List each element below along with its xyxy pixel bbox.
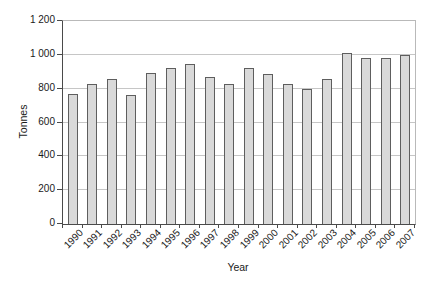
plot-area xyxy=(62,20,416,225)
x-tick-label: 1993 xyxy=(120,227,144,251)
x-tick-mark xyxy=(336,224,337,228)
x-tick-mark xyxy=(355,224,356,228)
x-tick-label: 1997 xyxy=(198,227,222,251)
x-tick-mark xyxy=(218,224,219,228)
bar-1997 xyxy=(205,77,215,224)
x-tick-mark xyxy=(297,224,298,228)
bar-1999 xyxy=(244,68,254,224)
y-tick-label: 1 000 xyxy=(0,48,55,60)
bar-1993 xyxy=(126,95,136,224)
x-tick-label: 1996 xyxy=(178,227,202,251)
x-tick-mark xyxy=(199,224,200,228)
x-tick-mark xyxy=(101,224,102,228)
x-tick-mark xyxy=(179,224,180,228)
x-tick-label: 2001 xyxy=(276,227,300,251)
bar-1992 xyxy=(107,79,117,224)
x-tick-label: 1998 xyxy=(218,227,242,251)
y-tick-label: 1 200 xyxy=(0,14,55,26)
x-tick-label: 1995 xyxy=(159,227,183,251)
bar-chart: Tonnes Year 02004006008001 0001 20019901… xyxy=(0,0,422,285)
x-tick-label: 1994 xyxy=(139,227,163,251)
bar-2003 xyxy=(322,79,332,224)
y-tick-mark xyxy=(57,88,62,89)
x-tick-label: 2000 xyxy=(257,227,281,251)
x-tick-label: 2004 xyxy=(335,227,359,251)
x-tick-label: 2002 xyxy=(296,227,320,251)
x-tick-mark xyxy=(414,224,415,228)
x-tick-label: 1999 xyxy=(237,227,261,251)
bar-2001 xyxy=(283,84,293,224)
x-tick-mark xyxy=(394,224,395,228)
bar-2002 xyxy=(302,89,312,224)
bar-1998 xyxy=(224,84,234,224)
bar-2004 xyxy=(342,53,352,224)
x-tick-label: 2007 xyxy=(394,227,418,251)
y-tick-label: 400 xyxy=(0,149,55,161)
x-tick-label: 1992 xyxy=(100,227,124,251)
x-tick-label: 1991 xyxy=(81,227,105,251)
y-tick-label: 600 xyxy=(0,116,55,128)
x-tick-mark xyxy=(316,224,317,228)
x-tick-mark xyxy=(140,224,141,228)
x-tick-mark xyxy=(375,224,376,228)
x-tick-label: 2005 xyxy=(354,227,378,251)
bar-1996 xyxy=(185,64,195,224)
x-axis-title: Year xyxy=(62,261,414,273)
y-tick-label: 200 xyxy=(0,183,55,195)
bar-2000 xyxy=(263,74,273,224)
x-tick-mark xyxy=(121,224,122,228)
bar-1990 xyxy=(68,94,78,224)
x-tick-mark xyxy=(160,224,161,228)
y-tick-label: 800 xyxy=(0,82,55,94)
gridline xyxy=(63,54,415,55)
x-tick-mark xyxy=(62,224,63,228)
y-tick-mark xyxy=(57,122,62,123)
y-tick-mark xyxy=(57,155,62,156)
y-tick-mark xyxy=(57,20,62,21)
x-tick-mark xyxy=(238,224,239,228)
x-tick-mark xyxy=(258,224,259,228)
x-tick-label: 2003 xyxy=(315,227,339,251)
bar-1994 xyxy=(146,73,156,224)
bar-1991 xyxy=(87,84,97,224)
bar-2005 xyxy=(361,58,371,224)
bar-2007 xyxy=(400,55,410,224)
y-tick-label: 0 xyxy=(0,217,55,229)
bar-1995 xyxy=(166,68,176,224)
y-tick-mark xyxy=(57,189,62,190)
x-tick-mark xyxy=(277,224,278,228)
x-tick-label: 2006 xyxy=(374,227,398,251)
bar-2006 xyxy=(381,58,391,224)
y-tick-mark xyxy=(57,54,62,55)
x-tick-label: 1990 xyxy=(61,227,85,251)
x-tick-mark xyxy=(82,224,83,228)
